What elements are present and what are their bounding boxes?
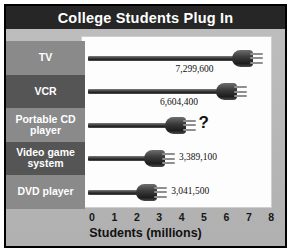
x-tick-label-4: 4 bbox=[179, 211, 185, 223]
x-tick-label-8: 8 bbox=[268, 211, 274, 223]
chart-body: TVVCRPortable CDplayerVideo gamesystemDV… bbox=[6, 29, 285, 246]
value-label-4: 3,389,100 bbox=[179, 152, 217, 162]
plug-prong-5-1 bbox=[154, 187, 167, 189]
value-label-5: 3,041,500 bbox=[171, 186, 209, 196]
x-tick-label-7: 7 bbox=[246, 211, 252, 223]
category-label-4: Video gamesystem bbox=[6, 142, 85, 176]
chart-figure: College Students Plug In TVVCRPortable C… bbox=[4, 4, 287, 248]
x-tick-label-2: 2 bbox=[134, 211, 140, 223]
plug-prong-2-2 bbox=[234, 91, 247, 93]
category-label-1: TV bbox=[6, 41, 85, 75]
value-label-1: 7,299,600 bbox=[176, 64, 214, 74]
x-tick-label-6: 6 bbox=[223, 211, 229, 223]
category-label-text: VCR bbox=[34, 86, 56, 97]
category-label-text-line2: player bbox=[15, 125, 75, 136]
value-unknown-marker: ? bbox=[198, 113, 208, 133]
plug-prong-4-3 bbox=[162, 162, 175, 164]
category-label-text: TV bbox=[39, 52, 52, 63]
plug-prong-2-1 bbox=[234, 86, 247, 88]
value-label-2: 6,604,400 bbox=[160, 97, 198, 107]
category-label-5: DVD player bbox=[6, 175, 85, 209]
plug-prong-1-3 bbox=[250, 62, 263, 64]
x-tick-label-1: 1 bbox=[111, 211, 117, 223]
x-tick-label-3: 3 bbox=[156, 211, 162, 223]
plug-prong-4-1 bbox=[162, 153, 175, 155]
plug-prong-3-3 bbox=[183, 129, 196, 131]
category-label-2: VCR bbox=[6, 75, 85, 109]
chart-title: College Students Plug In bbox=[58, 10, 234, 26]
bar-cord-3 bbox=[88, 123, 171, 128]
plug-prong-1-2 bbox=[250, 57, 263, 59]
x-axis-ticks: 012345678 bbox=[81, 211, 272, 225]
chart-title-bar: College Students Plug In bbox=[6, 6, 285, 29]
plug-prong-5-2 bbox=[154, 191, 167, 193]
category-label-text-line2: system bbox=[16, 158, 75, 169]
plug-prong-5-3 bbox=[154, 196, 167, 198]
x-tick-label-0: 0 bbox=[89, 211, 95, 223]
category-label-text: DVD player bbox=[17, 186, 73, 197]
plug-prong-4-2 bbox=[162, 158, 175, 160]
bar-cord-4 bbox=[88, 156, 150, 161]
plug-prong-3-1 bbox=[183, 120, 196, 122]
plug-prong-2-3 bbox=[234, 95, 247, 97]
bar-cord-1 bbox=[88, 56, 238, 61]
plug-prong-1-1 bbox=[250, 53, 263, 55]
bar-cord-2 bbox=[88, 89, 222, 94]
bar-cord-5 bbox=[88, 190, 142, 195]
x-axis-title: Students (millions) bbox=[6, 226, 285, 240]
plug-prong-3-2 bbox=[183, 124, 196, 126]
x-tick-label-5: 5 bbox=[201, 211, 207, 223]
category-label-3: Portable CDplayer bbox=[6, 108, 85, 142]
